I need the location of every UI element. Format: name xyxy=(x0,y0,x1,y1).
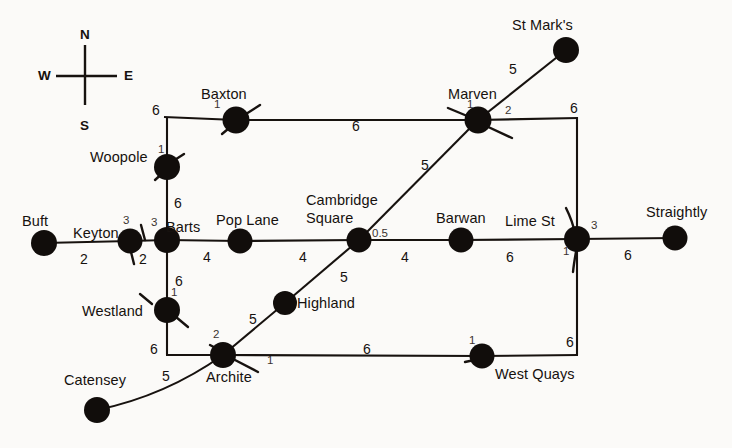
station-label-baxton: Baxton xyxy=(201,87,247,102)
edge-weight-marven-lime-st: 6 xyxy=(570,101,578,115)
edge-archite-west-quays xyxy=(223,355,482,356)
station-node-cambridge-square[interactable] xyxy=(347,228,372,253)
edge-weight-marven-cambridge: 5 xyxy=(421,158,429,172)
junction-label-cambridge: 0.5 xyxy=(372,228,388,240)
station-node-keyton[interactable] xyxy=(118,229,143,254)
edge-lime-st-straightly xyxy=(577,238,675,239)
station-label-pop-lane: Pop Lane xyxy=(216,213,279,228)
compass-label-south: S xyxy=(80,119,89,133)
station-node-archite[interactable] xyxy=(210,342,236,368)
edge-weight-archite-catensey: 5 xyxy=(162,369,170,383)
junction-label-keyton-bottom: 2 xyxy=(139,252,147,266)
station-node-westland[interactable] xyxy=(154,297,180,323)
station-label-buft: Buft xyxy=(22,214,48,229)
station-label-barwan: Barwan xyxy=(436,211,486,226)
station-label-westland: Westland xyxy=(82,304,143,319)
edge-pop-lane-cambridge xyxy=(240,240,359,241)
edge-weight-marven-st-marks: 5 xyxy=(509,62,517,76)
tick-westland-se xyxy=(176,317,188,327)
station-label-west-quays: West Quays xyxy=(495,367,575,382)
junction-label-westland: 1 xyxy=(171,287,177,299)
edge-weight-lime-st-straightly: 6 xyxy=(624,248,632,262)
station-label-catensey: Catensey xyxy=(64,373,126,388)
station-node-baxton[interactable] xyxy=(223,107,250,134)
station-node-straightly[interactable] xyxy=(663,226,688,251)
edge-weight-buft-keyton: 2 xyxy=(80,252,88,266)
junction-label-archite-top: 2 xyxy=(213,329,219,341)
compass-label-north: N xyxy=(80,28,90,42)
junction-label-barts: 3 xyxy=(151,217,157,229)
station-node-highland[interactable] xyxy=(273,291,297,315)
station-label-cambridge-line1: Cambridge xyxy=(306,193,378,208)
junction-label-archite-right: 1 xyxy=(267,355,273,367)
edge-weight-barts-pop-lane: 4 xyxy=(203,250,211,264)
station-label-highland: Highland xyxy=(297,296,355,311)
compass-rose xyxy=(56,45,117,105)
station-node-catensey[interactable] xyxy=(84,397,110,423)
station-node-west-quays[interactable] xyxy=(470,344,495,369)
station-label-woopole: Woopole xyxy=(90,150,148,165)
edge-weight-highland-archite: 5 xyxy=(249,312,257,326)
edge-barwan-lime-st xyxy=(461,239,577,240)
station-label-straightly: Straightly xyxy=(646,205,707,220)
junction-label-lime-st-right: 3 xyxy=(591,220,597,232)
station-node-barwan[interactable] xyxy=(449,228,474,253)
edge-marven-st-marks xyxy=(478,50,566,120)
edge-weight-barwan-lime-st: 6 xyxy=(506,250,514,264)
edge-weight-barts-woopole: 6 xyxy=(174,196,182,210)
edge-weight-archite-west-quays: 6 xyxy=(363,342,371,356)
edge-marven-corner xyxy=(478,118,578,120)
edge-weight-woopole-baxton: 6 xyxy=(152,103,160,117)
compass-label-west: W xyxy=(38,69,51,83)
junction-label-west-quays: 1 xyxy=(469,335,475,347)
edge-weight-baxton-marven: 6 xyxy=(352,119,360,133)
junction-label-marven-right: 2 xyxy=(505,105,511,117)
edge-west-quays-corner xyxy=(482,355,578,356)
junction-label-keyton-top: 3 xyxy=(123,215,129,227)
network-diagram-canvas: N S E W Buft Keyton Barts Pop Lane Cambr… xyxy=(0,0,732,448)
station-label-lime-st: Lime St xyxy=(505,214,555,229)
station-node-buft[interactable] xyxy=(31,230,57,256)
junction-label-baxton: 1 xyxy=(214,99,220,111)
station-node-st-marks[interactable] xyxy=(553,37,579,63)
station-label-barts: Barts xyxy=(166,220,200,235)
edge-weight-westland-archite: 6 xyxy=(150,342,158,356)
station-node-pop-lane[interactable] xyxy=(228,229,253,254)
station-node-marven[interactable] xyxy=(465,107,492,134)
station-label-st-marks: St Mark's xyxy=(512,18,573,33)
junction-label-woopole: 1 xyxy=(158,144,164,156)
junction-label-lime-st-bottom: 1 xyxy=(563,246,569,258)
station-node-group xyxy=(31,37,688,423)
edge-weight-west-quays-lime-st: 6 xyxy=(566,335,574,349)
edge-weight-cambridge-highland: 5 xyxy=(340,270,348,284)
compass-label-east: E xyxy=(124,69,133,83)
station-node-woopole[interactable] xyxy=(154,154,180,180)
edge-weight-pop-lane-cambridge: 4 xyxy=(299,250,307,264)
junction-label-marven-left: 1 xyxy=(467,99,473,111)
edge-weight-cambridge-barwan: 4 xyxy=(401,250,409,264)
tick-baxton-ne xyxy=(246,105,260,114)
station-label-archite: Archite xyxy=(206,370,252,385)
station-label-keyton: Keyton xyxy=(73,226,119,241)
station-label-cambridge-line2: Square xyxy=(306,211,353,226)
